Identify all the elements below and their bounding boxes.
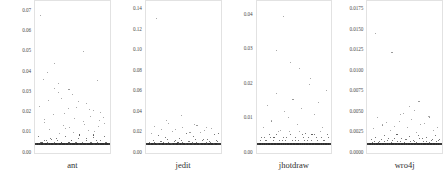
data-point — [174, 141, 175, 142]
data-point — [290, 62, 291, 63]
data-point — [199, 143, 200, 144]
data-point — [387, 143, 388, 144]
data-point — [217, 141, 218, 142]
data-point — [172, 131, 173, 132]
data-point — [383, 143, 384, 144]
y-tick-label: 0.08 — [133, 68, 142, 73]
data-point — [416, 132, 417, 133]
data-point — [79, 134, 80, 135]
y-tick-label: 0.00 — [22, 150, 31, 155]
data-point — [438, 143, 439, 144]
data-point — [403, 113, 404, 114]
data-point — [44, 119, 45, 120]
data-point — [39, 143, 40, 144]
data-point — [90, 116, 91, 117]
data-point — [266, 143, 267, 144]
panel-jhotdraw: 0.000.010.020.030.04jhotdraw — [222, 0, 333, 175]
data-point — [308, 137, 309, 138]
data-point — [84, 124, 85, 125]
y-tick-label: 0.02 — [133, 129, 142, 134]
data-point — [77, 143, 78, 144]
data-point — [276, 50, 277, 51]
y-tick-label: 0.0075 — [350, 88, 364, 93]
data-point — [106, 142, 107, 143]
data-point — [388, 138, 389, 139]
plot-area-ant — [34, 0, 111, 154]
data-point — [64, 113, 65, 114]
y-tick-label: 0.02 — [244, 81, 253, 86]
data-point — [65, 136, 66, 137]
data-point — [194, 124, 195, 125]
data-point — [69, 127, 70, 128]
data-point — [270, 137, 271, 138]
data-point — [316, 137, 317, 138]
data-point — [218, 133, 219, 134]
data-point — [313, 143, 314, 144]
data-point — [419, 138, 420, 139]
data-point — [159, 143, 160, 144]
data-point — [58, 83, 59, 84]
data-point — [181, 115, 182, 116]
data-point — [303, 137, 304, 138]
panel-label-wro4j: wro4j — [332, 154, 443, 176]
data-point — [192, 142, 193, 143]
data-point — [74, 118, 75, 119]
data-point — [173, 143, 174, 144]
data-point — [66, 143, 67, 144]
data-point — [314, 134, 315, 135]
data-point — [168, 123, 169, 124]
data-point — [411, 119, 412, 120]
y-tick-label: 0.05 — [22, 49, 31, 54]
data-point — [304, 140, 305, 141]
data-point — [324, 140, 325, 141]
data-point — [402, 143, 403, 144]
y-tick-label: 0.07 — [22, 8, 31, 13]
data-point — [53, 114, 54, 115]
data-point — [263, 127, 264, 128]
data-point — [167, 139, 168, 140]
data-point — [200, 132, 201, 133]
y-tick-label: 0.0000 — [350, 150, 364, 155]
data-point — [400, 141, 401, 142]
data-point — [97, 80, 98, 81]
data-point — [213, 143, 214, 144]
data-point — [390, 130, 391, 131]
data-point — [98, 126, 99, 127]
data-point — [275, 143, 276, 144]
data-point — [299, 131, 300, 132]
data-point — [49, 143, 50, 144]
data-point — [281, 143, 282, 144]
data-point — [371, 139, 372, 140]
data-point — [316, 143, 317, 144]
data-point — [439, 139, 440, 140]
data-point — [314, 114, 315, 115]
data-point — [269, 134, 270, 135]
data-point — [46, 140, 47, 141]
data-point — [71, 140, 72, 141]
data-point — [389, 143, 390, 144]
data-point — [399, 121, 400, 122]
data-point — [422, 138, 423, 139]
data-point — [377, 143, 378, 144]
data-point — [180, 143, 181, 144]
data-point — [95, 143, 96, 144]
data-point — [278, 143, 279, 144]
data-point — [285, 143, 286, 144]
data-point — [301, 108, 302, 109]
data-point — [65, 128, 66, 129]
data-point — [215, 143, 216, 144]
data-point — [285, 140, 286, 141]
data-point — [104, 136, 105, 137]
data-point — [382, 124, 383, 125]
panel-body-ant: 0.000.010.020.030.040.050.060.07 — [0, 0, 111, 154]
data-point — [418, 143, 419, 144]
data-point — [320, 131, 321, 132]
data-point — [47, 72, 48, 73]
data-point — [284, 111, 285, 112]
data-point — [189, 132, 190, 133]
data-point — [317, 140, 318, 141]
data-point — [431, 140, 432, 141]
data-point — [311, 140, 312, 141]
plot-area-jedit — [145, 0, 222, 154]
y-axis-jedit: 0.000.020.040.060.080.100.120.14 — [111, 0, 145, 154]
